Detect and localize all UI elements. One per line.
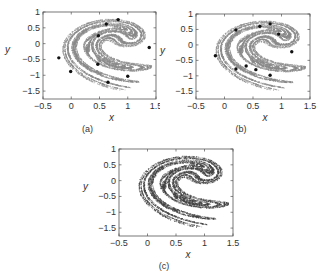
svg-text:−1.5: −1.5 — [175, 86, 193, 96]
svg-text:−1.5: −1.5 — [98, 223, 116, 233]
svg-text:−0.5: −0.5 — [98, 191, 116, 201]
svg-text:1: 1 — [111, 144, 116, 154]
svg-text:1.5: 1.5 — [227, 238, 240, 248]
svg-text:−1: −1 — [30, 70, 40, 80]
panel-a: −0.500.511.510.50−0.5−1−1.5 x y (a) — [0, 0, 160, 138]
panel-b: −0.500.511.510.50−0.5−1−1.5 x y (b) — [155, 0, 321, 138]
svg-text:−1: −1 — [183, 71, 193, 81]
svg-text:1.5: 1.5 — [304, 101, 317, 111]
svg-text:0.5: 0.5 — [27, 23, 40, 33]
attractor-b — [216, 21, 306, 91]
attractor-a — [63, 19, 153, 90]
panel-label-b: (b) — [236, 124, 247, 134]
svg-text:1: 1 — [125, 101, 130, 111]
svg-text:1: 1 — [188, 9, 193, 19]
svg-text:0: 0 — [222, 101, 227, 111]
svg-text:1: 1 — [35, 7, 40, 17]
svg-text:0: 0 — [111, 176, 116, 186]
svg-text:0.5: 0.5 — [180, 24, 193, 34]
svg-text:0: 0 — [188, 40, 193, 50]
chart-a: −0.500.511.510.50−0.5−1−1.5 x y (a) — [0, 0, 160, 138]
chart-b: −0.500.511.510.50−0.5−1−1.5 x y (b) — [155, 0, 321, 138]
svg-text:−1: −1 — [106, 207, 116, 217]
panel-label-c: (c) — [159, 261, 170, 271]
svg-text:−0.5: −0.5 — [175, 55, 193, 65]
xlabel-a: x — [108, 112, 115, 123]
panel-label-a: (a) — [82, 124, 93, 134]
svg-text:0: 0 — [145, 238, 150, 248]
panel-c: −0.500.511.510.50−0.5−1−1.5 x y (c) — [78, 137, 248, 277]
svg-text:0: 0 — [69, 101, 74, 111]
svg-text:0.5: 0.5 — [103, 160, 116, 170]
svg-text:−1.5: −1.5 — [22, 86, 40, 96]
chart-c: −0.500.511.510.50−0.5−1−1.5 x y (c) — [78, 137, 248, 277]
svg-text:0.5: 0.5 — [93, 101, 106, 111]
svg-text:0: 0 — [35, 39, 40, 49]
svg-text:0.5: 0.5 — [170, 238, 183, 248]
svg-text:−0.5: −0.5 — [187, 101, 205, 111]
ylabel-b: y — [159, 45, 166, 56]
svg-text:−0.5: −0.5 — [22, 54, 40, 64]
svg-text:1: 1 — [202, 238, 207, 248]
ylabel-a: y — [4, 44, 11, 55]
svg-text:1: 1 — [279, 101, 284, 111]
svg-text:0.5: 0.5 — [247, 101, 260, 111]
svg-text:−0.5: −0.5 — [110, 238, 128, 248]
ylabel-c: y — [82, 181, 89, 192]
svg-text:−0.5: −0.5 — [34, 101, 52, 111]
xlabel-c: x — [185, 249, 192, 260]
xlabel-b: x — [262, 112, 269, 123]
